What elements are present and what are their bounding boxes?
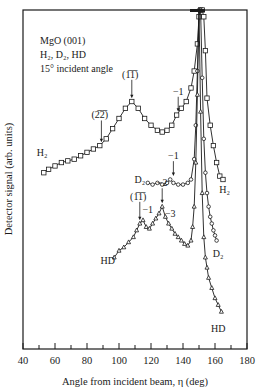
arrow-head-icon bbox=[172, 173, 175, 177]
triangle-marker bbox=[135, 228, 139, 232]
triangle-marker bbox=[203, 255, 207, 259]
triangle-marker bbox=[213, 296, 217, 300]
triangle-marker bbox=[117, 248, 121, 252]
triangle-marker bbox=[202, 235, 206, 239]
circle-marker bbox=[207, 205, 211, 209]
circle-marker bbox=[202, 137, 206, 141]
circle-marker bbox=[189, 178, 193, 182]
annotation-angle: 15° incident angle bbox=[40, 63, 113, 74]
curve-label: H₂ bbox=[219, 184, 230, 195]
curve-label: HD bbox=[101, 255, 115, 266]
circle-marker bbox=[172, 181, 176, 185]
circle-marker bbox=[168, 178, 172, 182]
arrow-head-icon bbox=[138, 217, 141, 221]
triangle-marker bbox=[167, 221, 171, 225]
square-marker bbox=[136, 106, 140, 110]
annotation-block: MgO (001) H₂, D₂, HD 15° incident angle bbox=[40, 35, 113, 74]
x-tick-label: 60 bbox=[50, 355, 61, 366]
circle-marker bbox=[181, 183, 185, 187]
square-marker bbox=[91, 147, 95, 151]
triangle-marker bbox=[199, 109, 203, 113]
square-marker bbox=[72, 157, 76, 161]
circle-marker bbox=[151, 183, 155, 187]
square-marker bbox=[104, 137, 108, 141]
curve-label: −1 bbox=[142, 204, 153, 215]
curve-label: H₂ bbox=[37, 147, 48, 158]
curve-label: D₂ bbox=[213, 248, 224, 259]
triangle-marker bbox=[192, 204, 196, 208]
arrow-head-icon bbox=[100, 139, 103, 143]
square-marker bbox=[221, 177, 225, 181]
circle-marker bbox=[204, 171, 208, 175]
triangle-marker bbox=[131, 235, 135, 239]
x-axis-ticks bbox=[23, 343, 247, 349]
triangle-marker bbox=[195, 92, 199, 96]
triangle-marker bbox=[160, 204, 164, 208]
curve-label: HD bbox=[211, 323, 225, 334]
circle-marker bbox=[210, 222, 214, 226]
square-marker bbox=[165, 128, 169, 132]
triangle-marker bbox=[157, 211, 161, 215]
circle-marker bbox=[208, 215, 212, 219]
square-marker bbox=[170, 123, 174, 127]
square-marker bbox=[189, 86, 193, 90]
circle-marker bbox=[213, 234, 217, 238]
curve-label: −1 bbox=[173, 86, 184, 97]
arrow-head-icon bbox=[161, 200, 164, 204]
curve-label: (1̅1̅) bbox=[122, 69, 138, 81]
circle-marker bbox=[146, 181, 150, 185]
arrow-head-icon bbox=[130, 95, 133, 99]
triangle-marker bbox=[210, 286, 214, 290]
scattering-chart: 406080100120140160180 Angle from inciden… bbox=[0, 0, 264, 391]
square-marker bbox=[203, 48, 207, 52]
annotation-sample: MgO (001) bbox=[40, 35, 85, 47]
triangle-marker bbox=[189, 238, 193, 242]
square-marker bbox=[195, 42, 199, 46]
triangle-marker bbox=[216, 303, 220, 307]
x-tick-label: 180 bbox=[239, 355, 255, 366]
x-tick-label: 120 bbox=[143, 355, 159, 366]
curve-label: (2̅2̅) bbox=[91, 109, 108, 121]
x-axis-tick-labels: 406080100120140160180 bbox=[18, 355, 255, 366]
square-marker bbox=[149, 123, 153, 127]
x-axis-label: Angle from incident beam, η (deg) bbox=[62, 376, 209, 388]
curve-label: (1̅1̅) bbox=[130, 191, 146, 203]
peak-cap bbox=[190, 9, 205, 12]
square-marker bbox=[85, 150, 89, 154]
x-tick-label: 40 bbox=[18, 355, 29, 366]
x-tick-label: 80 bbox=[82, 355, 93, 366]
square-marker bbox=[202, 15, 206, 19]
square-marker bbox=[205, 96, 209, 100]
triangle-marker bbox=[205, 265, 209, 269]
square-marker bbox=[174, 113, 178, 117]
square-marker bbox=[117, 116, 121, 120]
circle-marker bbox=[176, 183, 180, 187]
square-marker bbox=[53, 164, 57, 168]
circle-marker bbox=[205, 191, 209, 195]
circle-marker bbox=[200, 76, 204, 80]
x-tick-label: 140 bbox=[175, 355, 191, 366]
circle-marker bbox=[215, 239, 219, 243]
triangle-marker bbox=[219, 309, 223, 313]
triangle-marker bbox=[200, 191, 204, 195]
square-marker bbox=[130, 99, 134, 103]
triangle-marker bbox=[141, 218, 145, 222]
curve-label: −3 bbox=[165, 208, 176, 219]
curve-label: −2 bbox=[157, 177, 168, 188]
square-marker bbox=[179, 106, 183, 110]
square-marker bbox=[110, 126, 114, 130]
square-marker bbox=[155, 128, 159, 132]
square-marker bbox=[142, 116, 146, 120]
square-marker bbox=[123, 106, 127, 110]
circle-marker bbox=[212, 229, 216, 233]
circle-marker bbox=[186, 181, 190, 185]
triangle-marker bbox=[207, 276, 211, 280]
x-tick-label: 160 bbox=[207, 355, 223, 366]
square-marker bbox=[66, 159, 70, 163]
curve-label: D₂ bbox=[134, 174, 145, 185]
square-marker bbox=[211, 143, 215, 147]
square-marker bbox=[208, 123, 212, 127]
square-marker bbox=[78, 154, 82, 158]
square-marker bbox=[214, 160, 218, 164]
curve-label: −1 bbox=[168, 150, 179, 161]
